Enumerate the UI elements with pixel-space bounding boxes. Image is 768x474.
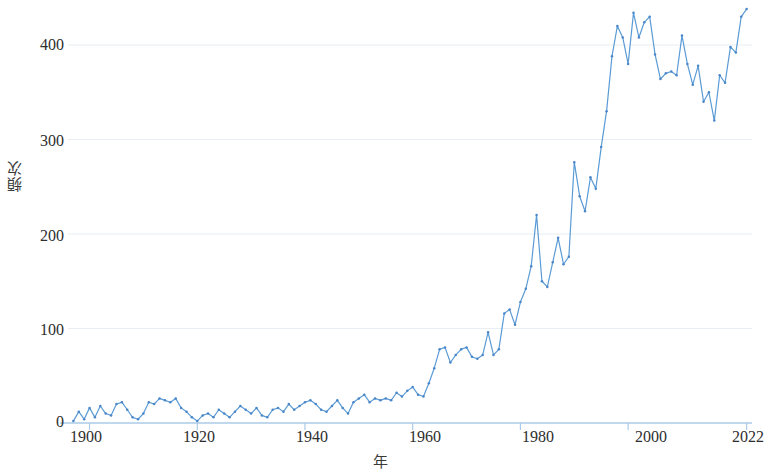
data-point xyxy=(88,407,91,410)
data-point xyxy=(433,367,436,370)
data-point xyxy=(390,399,393,402)
data-point xyxy=(191,416,194,419)
series-line xyxy=(73,9,746,421)
data-point xyxy=(508,308,511,311)
data-point xyxy=(234,410,237,413)
data-point xyxy=(589,176,592,179)
data-point xyxy=(686,63,689,66)
data-point xyxy=(675,74,678,77)
x-tick-label-1940: 1940 xyxy=(272,428,352,446)
data-point xyxy=(438,348,441,351)
data-point xyxy=(99,405,102,408)
data-point xyxy=(148,401,151,404)
data-point xyxy=(724,82,727,85)
data-point xyxy=(573,161,576,164)
data-point xyxy=(293,409,296,412)
data-point xyxy=(546,286,549,289)
data-point xyxy=(239,405,242,408)
data-point xyxy=(304,401,307,404)
data-point xyxy=(665,72,668,75)
data-point xyxy=(228,416,231,419)
data-point xyxy=(417,393,420,396)
data-point xyxy=(121,401,124,404)
data-point xyxy=(104,412,107,415)
data-point xyxy=(169,401,172,404)
data-point xyxy=(341,407,344,410)
data-point xyxy=(320,409,323,412)
data-point xyxy=(201,414,204,417)
data-point xyxy=(444,346,447,349)
data-point xyxy=(277,407,280,410)
data-point xyxy=(352,401,355,404)
data-point xyxy=(551,261,554,264)
data-point xyxy=(422,395,425,398)
data-point xyxy=(740,15,743,18)
data-point xyxy=(627,63,630,66)
data-point xyxy=(708,91,711,94)
gridlines xyxy=(68,45,752,329)
data-point xyxy=(250,412,253,415)
data-point xyxy=(72,420,75,423)
data-point xyxy=(336,399,339,402)
data-point xyxy=(697,65,700,68)
data-point xyxy=(282,410,285,413)
data-point xyxy=(261,414,264,417)
data-point xyxy=(745,8,748,11)
data-point xyxy=(616,25,619,28)
data-point xyxy=(735,51,738,54)
data-point xyxy=(185,410,188,413)
data-point xyxy=(519,301,522,304)
data-point xyxy=(487,331,490,334)
data-point xyxy=(153,403,156,406)
data-point xyxy=(514,323,517,326)
data-point xyxy=(174,397,177,400)
x-tick-label-2000: 2000 xyxy=(611,428,691,446)
data-point xyxy=(638,36,641,39)
data-point xyxy=(78,410,81,413)
data-point xyxy=(471,356,474,359)
data-point xyxy=(568,255,571,258)
y-tick-label-200: 200 xyxy=(16,227,64,245)
data-point xyxy=(632,12,635,15)
data-point xyxy=(535,214,538,217)
data-point xyxy=(729,46,732,49)
data-point xyxy=(212,416,215,419)
data-point xyxy=(611,55,614,58)
x-axis-label: 年 xyxy=(0,450,761,471)
data-point xyxy=(288,403,291,406)
data-point xyxy=(368,401,371,404)
data-point xyxy=(298,405,301,408)
y-tick-label-400: 400 xyxy=(16,36,64,54)
data-point xyxy=(244,409,247,412)
data-point xyxy=(325,410,328,413)
data-point xyxy=(578,195,581,198)
data-point xyxy=(363,393,366,396)
data-point xyxy=(358,397,361,400)
data-point xyxy=(115,403,118,406)
data-point xyxy=(718,74,721,77)
data-point xyxy=(465,346,468,349)
data-point xyxy=(659,78,662,81)
data-point xyxy=(595,187,598,190)
data-point xyxy=(481,354,484,357)
y-tick-label-300: 300 xyxy=(16,132,64,150)
data-point xyxy=(541,280,544,283)
data-point xyxy=(266,416,269,419)
data-point xyxy=(255,407,258,410)
data-point xyxy=(476,357,479,360)
data-point xyxy=(158,397,161,400)
data-point xyxy=(621,36,624,39)
series-markers xyxy=(72,8,748,423)
y-axis-label: 頻次 xyxy=(4,160,30,192)
data-point xyxy=(492,354,495,357)
data-point xyxy=(702,100,705,103)
x-tick-label-1920: 1920 xyxy=(159,428,239,446)
data-point xyxy=(164,399,167,402)
data-point xyxy=(498,348,501,351)
data-point xyxy=(94,416,97,419)
data-point xyxy=(557,237,560,240)
data-point xyxy=(331,405,334,408)
data-point xyxy=(562,263,565,266)
